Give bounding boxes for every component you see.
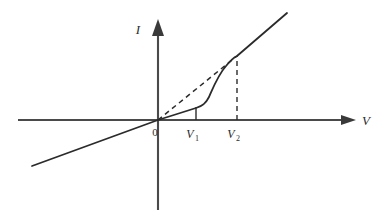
y-axis-arrowhead [152,19,164,36]
x-axis-arrowhead [341,115,356,125]
v2-tick-label-group: V 2 [227,127,240,143]
v1-tick-label-group: V 1 [186,127,199,143]
v2-tick-label: V [227,127,236,141]
third-quadrant-line [32,120,158,166]
iv-characteristic-plot: I V 0 V 1 V 2 [0,0,387,219]
y-axis-label: I [135,22,141,37]
v1-tick-subscript: 1 [195,134,199,143]
figure-container: I V 0 V 1 V 2 [0,0,387,219]
ohmic-extrapolation-dashed-line [158,56,237,120]
labels-group: I V 0 V 1 V 2 [135,22,372,143]
x-axis-label: V [362,113,372,128]
origin-label: 0 [152,126,158,138]
v1-tick-label: V [186,127,195,141]
characteristic-curve [158,13,287,120]
v2-tick-subscript: 2 [236,134,240,143]
axes-group [18,19,356,210]
